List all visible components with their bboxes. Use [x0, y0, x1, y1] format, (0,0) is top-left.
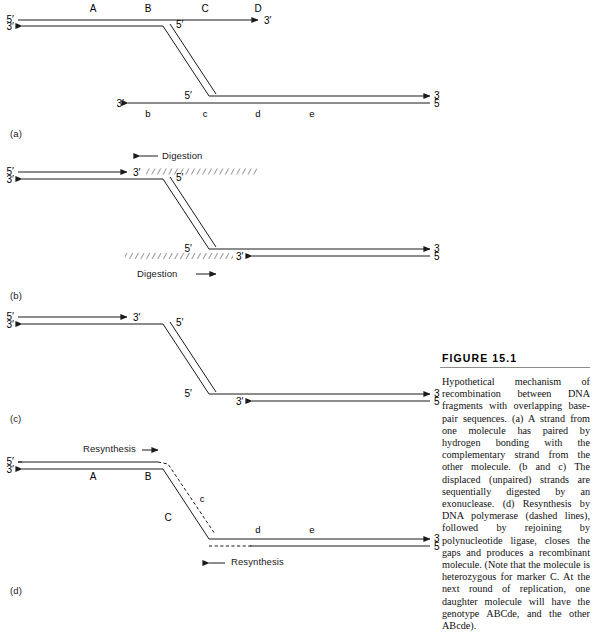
end-label-3prime: 3′: [7, 174, 15, 185]
marker-D: D: [254, 3, 261, 14]
end-label-5prime: 5′: [434, 251, 440, 262]
end-label-3prime: 3′: [7, 319, 15, 330]
marker-B: B: [145, 3, 152, 14]
marker-C: C: [201, 3, 208, 14]
end-label-3prime: 3′: [133, 312, 141, 323]
marker-B: B: [145, 471, 152, 482]
marker-b: b: [145, 108, 150, 119]
marker-c-lower: c: [200, 493, 205, 504]
figure-caption-column: FIGURE 15.1 Hypothetical mechanism of re…: [440, 352, 592, 632]
end-label-5prime: 5′: [185, 388, 193, 399]
end-label-3prime: 3′: [117, 98, 125, 109]
annotation-resynthesis-bottom: Resynthesis: [231, 556, 284, 567]
annotation-digestion-top: Digestion: [162, 150, 203, 161]
end-label-3prime: 3′: [236, 396, 244, 407]
panel-d-diagram: A B C c d e 5′ 3′ 3′ 5′: [0, 445, 440, 616]
panel-label-a: (a): [10, 128, 22, 139]
panel-b: 5′ 3′ 3′ 5′ 5′ 3′ 3′ 5′ Digestion Digest…: [0, 150, 440, 300]
resynthesis-strand-top: [158, 462, 215, 534]
marker-d: d: [255, 108, 260, 119]
marker-A: A: [90, 3, 97, 14]
marker-e: e: [309, 108, 314, 119]
marker-c: c: [203, 108, 208, 119]
figure-heading: FIGURE 15.1: [442, 352, 592, 364]
marker-A: A: [90, 471, 97, 482]
panel-label-c: (c): [10, 413, 21, 424]
marker-C-upper: C: [164, 512, 171, 523]
marker-e: e: [309, 524, 314, 535]
digested-region-top: [146, 169, 258, 175]
end-label-3prime: 3′: [7, 21, 15, 32]
marker-d: d: [255, 524, 260, 535]
end-label-5prime: 5′: [185, 90, 193, 101]
end-label-5prime: 5′: [176, 317, 184, 328]
end-label-5prime: 5′: [185, 243, 193, 254]
figure-heading-rule: [440, 367, 590, 368]
end-label-5prime: 5′: [434, 98, 440, 109]
panel-c-diagram: 5′ 3′ 3′ 5′ 5′ 3′ 3′ 5′: [0, 300, 440, 445]
end-label-5prime: 5′: [176, 172, 184, 183]
end-label-3prime: 3′: [7, 464, 15, 475]
end-label-3prime: 3′: [264, 15, 272, 26]
end-label-5prime: 5′: [176, 19, 184, 30]
digested-region-bottom: [125, 253, 233, 259]
annotation-resynthesis-top: Resynthesis: [83, 443, 136, 454]
panel-a: A B C D b c d e 5′ 3′ 3′ 5′ 5′ 3′ 3′ 5′ …: [0, 0, 440, 150]
panel-d: A B C c d e 5′ 3′ 3′ 5′ Resynthesis Resy…: [0, 445, 440, 616]
panel-label-d: (d): [10, 585, 22, 596]
panel-b-diagram: 5′ 3′ 3′ 5′ 5′ 3′ 3′ 5′: [0, 150, 440, 300]
end-label-3prime: 3′: [133, 167, 141, 178]
end-label-3prime: 3′: [236, 251, 244, 262]
panel-a-diagram: A B C D b c d e 5′ 3′ 3′ 5′ 5′ 3′ 3′ 5′: [0, 0, 440, 150]
annotation-digestion-bottom: Digestion: [137, 268, 178, 279]
panel-c: 5′ 3′ 3′ 5′ 5′ 3′ 3′ 5′ (c): [0, 300, 440, 445]
figure-caption-text: Hypothetical mechanism of recombination …: [442, 376, 590, 632]
